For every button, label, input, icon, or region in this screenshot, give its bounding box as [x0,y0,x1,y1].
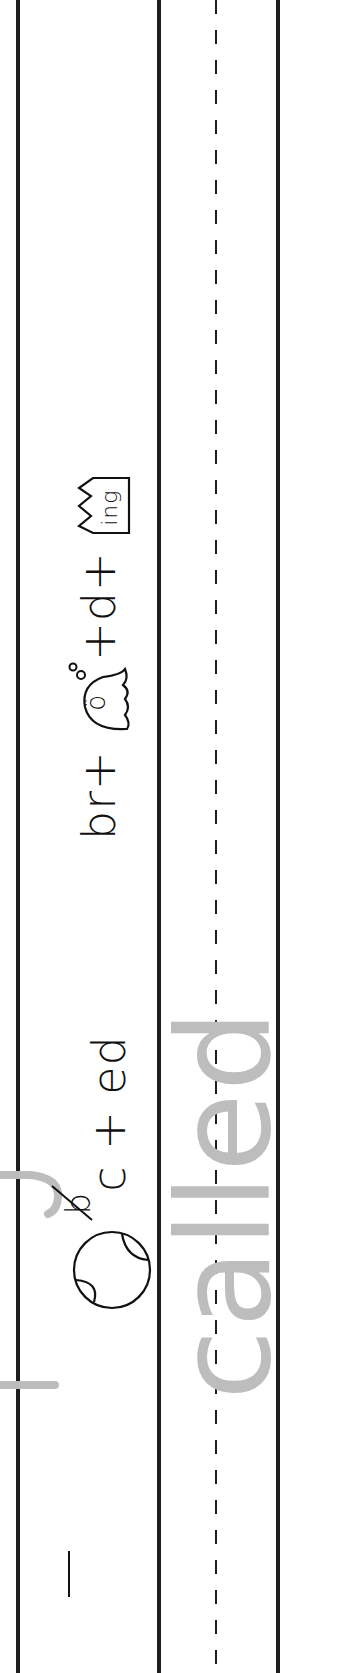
baseline-rule-line-row1 [157,0,161,1673]
top-rule-line [16,0,20,1673]
clue-bread-word-sum: br+ ö +d+ ing [72,474,131,840]
trace-word-called[interactable]: called [150,1008,299,1400]
partial-trace-letters [0,1150,60,1350]
crown-icon-text: ing [97,490,122,526]
clue-suffix: ed [82,1035,136,1095]
baseline-rule-line-row2 [276,0,280,1673]
crossed-out-letter: b [58,1192,98,1215]
clue-middle-letter: d [72,591,126,621]
tail-mark [68,1551,70,1597]
baseball-icon [72,1230,152,1310]
clue-prefix: br [72,790,126,840]
plus-sign: + [72,551,126,591]
plus-sign: + [72,621,126,661]
plus-sign: + [72,750,126,790]
midline-dashed [215,0,217,1673]
crown-icon: ing [75,474,131,536]
ghost-icon-letter: ö [81,694,111,711]
clue-called-word-sum: b c + ed [72,1035,152,1310]
plus-sign: + [82,1110,136,1150]
ghost-icon: ö [75,661,131,735]
